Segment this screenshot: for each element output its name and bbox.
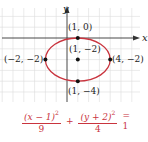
label-left-vertex: (−2, −2) [4,54,43,64]
ellipse-graph: x y (1, 0) (1, −2) (−2, −2) (4, −2) (1, … [0,0,148,105]
y-denominator: 4 [95,124,101,135]
x-denominator: 9 [39,124,45,135]
label-center: (1, −2) [69,44,101,54]
y-axis-label: y [62,3,69,14]
label-right-vertex: (4, −2) [112,54,144,64]
point-left-vertex [43,58,47,62]
label-bottom-vertex: (1, −4) [68,86,100,96]
ellipse-equation: (x − 1)2 9 + (y + 2)2 4 = 1 [20,106,140,136]
y-numerator: (y + 2) [80,112,111,122]
label-top-vertex: (1, 0) [68,22,92,32]
x-numerator: (x − 1) [24,112,55,122]
plus-sign: + [66,116,74,126]
point-top-vertex [76,36,80,40]
x-exponent: 2 [55,109,59,116]
point-bottom-vertex [76,79,80,83]
fraction-y-term: (y + 2)2 4 [78,107,117,135]
x-axis-arrow-icon [133,36,140,41]
equals-one: = 1 [122,111,137,131]
x-axis-label: x [142,32,148,43]
point-center [76,58,80,62]
fraction-x-term: (x − 1)2 9 [22,107,61,135]
y-exponent: 2 [112,109,116,116]
